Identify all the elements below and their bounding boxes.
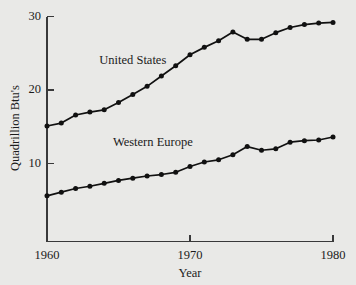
data-point (288, 140, 293, 145)
x-tick-label-1960: 1960 (35, 248, 60, 262)
data-point (202, 160, 207, 165)
x-tick-label-1980: 1980 (321, 248, 346, 262)
data-point (87, 110, 92, 115)
data-point (173, 170, 178, 175)
data-point (116, 178, 121, 183)
data-point (245, 144, 250, 149)
series-label-united-states: United States (99, 53, 166, 67)
data-point (145, 174, 150, 179)
data-point (259, 37, 264, 42)
y-axis-title: Quadrillion Btu's (8, 85, 22, 171)
series-united-states (45, 20, 336, 129)
data-point (331, 135, 336, 140)
data-point (230, 152, 235, 157)
data-point (302, 138, 307, 143)
data-point (259, 148, 264, 153)
data-point (273, 30, 278, 35)
data-point (159, 172, 164, 177)
y-tick-labels: 30 20 10 (29, 9, 42, 170)
y-tick-label-10: 10 (29, 156, 42, 170)
y-tick-label-20: 20 (29, 82, 42, 96)
x-axis-title: Year (178, 266, 202, 280)
data-point (302, 22, 307, 27)
y-tick-label-30: 30 (29, 9, 42, 23)
data-point (202, 45, 207, 50)
series-label-western-europe: Western Europe (113, 135, 193, 149)
tick-marks (47, 17, 333, 242)
energy-consumption-line-chart: 30 20 10 1960 1970 1980 Year Quadrillion… (0, 0, 356, 285)
data-point (73, 186, 78, 191)
data-point (230, 29, 235, 34)
data-point (145, 84, 150, 89)
chart-canvas: 30 20 10 1960 1970 1980 Year Quadrillion… (0, 0, 356, 285)
data-point (130, 176, 135, 181)
data-point (159, 74, 164, 79)
data-point (188, 52, 193, 57)
plot-axes (47, 17, 333, 242)
data-point (102, 107, 107, 112)
x-tick-label-1970: 1970 (178, 248, 203, 262)
data-point (45, 193, 50, 198)
data-point (245, 37, 250, 42)
axis-lines (47, 17, 333, 242)
data-point (73, 112, 78, 117)
data-point (316, 21, 321, 26)
data-point (102, 181, 107, 186)
data-point (316, 137, 321, 142)
x-tick-labels: 1960 1970 1980 (35, 248, 346, 262)
data-point (59, 121, 64, 126)
data-point (273, 146, 278, 151)
data-point (188, 164, 193, 169)
data-point (331, 20, 336, 25)
data-point (130, 92, 135, 97)
data-point (216, 157, 221, 162)
data-point (288, 25, 293, 30)
data-point (173, 63, 178, 68)
data-point (116, 100, 121, 105)
data-point (216, 38, 221, 43)
united-states-markers (45, 20, 336, 129)
data-point (59, 190, 64, 195)
data-point (45, 124, 50, 129)
data-point (87, 184, 92, 189)
